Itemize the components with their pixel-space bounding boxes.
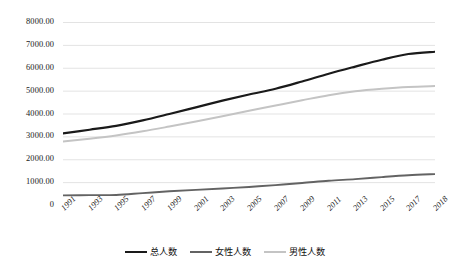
y-tick-label: 3000.00 xyxy=(26,132,54,140)
y-tick-label: 0 xyxy=(50,201,54,209)
y-tick-label: 7000.00 xyxy=(26,41,54,49)
y-tick-label: 8000.00 xyxy=(26,18,54,26)
series-line xyxy=(63,52,435,134)
y-tick-label: 2000.00 xyxy=(26,155,54,163)
legend-label: 总人数 xyxy=(150,247,177,256)
y-tick-label: 1000.00 xyxy=(26,178,54,186)
y-axis: 8000.007000.006000.005000.004000.003000.… xyxy=(0,22,58,205)
x-axis: 1991199319951997199920012003200520072009… xyxy=(63,207,435,241)
legend-swatch xyxy=(264,251,286,253)
chart-legend: 总人数女性人数男性人数 xyxy=(0,243,450,261)
series-line xyxy=(63,174,435,195)
legend-swatch xyxy=(190,251,212,253)
legend-label: 男性人数 xyxy=(289,247,325,256)
line-chart: 8000.007000.006000.005000.004000.003000.… xyxy=(0,0,450,266)
legend-item[interactable]: 女性人数 xyxy=(190,247,251,256)
y-tick-label: 6000.00 xyxy=(26,64,54,72)
legend-swatch xyxy=(125,251,147,253)
legend-label: 女性人数 xyxy=(215,247,251,256)
legend-item[interactable]: 总人数 xyxy=(125,247,177,256)
plot-area xyxy=(63,22,435,205)
y-tick-label: 4000.00 xyxy=(26,109,54,117)
legend-item[interactable]: 男性人数 xyxy=(264,247,325,256)
y-tick-label: 5000.00 xyxy=(26,86,54,94)
series-lines xyxy=(63,22,435,205)
